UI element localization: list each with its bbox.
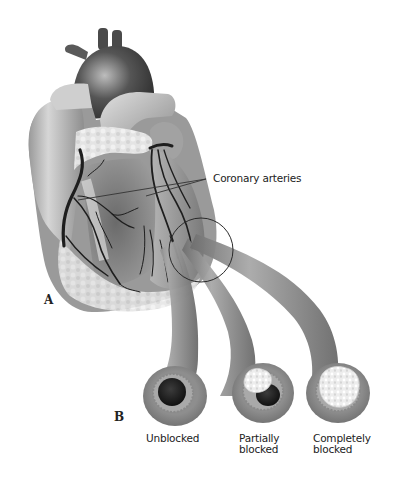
label-partially-blocked-line2: blocked [239,444,279,455]
callout-label-coronary-arteries: Coronary arteries [213,173,301,184]
plaque [244,368,271,392]
label-completely-blocked-line2: blocked [313,444,371,455]
plaque [320,367,360,408]
label-partially-blocked: Partially blocked [239,433,279,455]
panel-letter-a: A [44,293,53,307]
cross-section-unblocked [143,366,207,426]
cross-section-partially-blocked [232,363,294,423]
label-unblocked: Unblocked [146,433,199,444]
lumen [158,378,186,406]
panel-letter-b: B [114,410,124,424]
label-completely-blocked: Completely blocked [313,433,371,455]
label-unblocked-line1: Unblocked [146,433,199,444]
heart-illustration [29,28,339,400]
coronary-artery-diagram [0,0,399,482]
cross-section-completely-blocked [306,363,370,423]
